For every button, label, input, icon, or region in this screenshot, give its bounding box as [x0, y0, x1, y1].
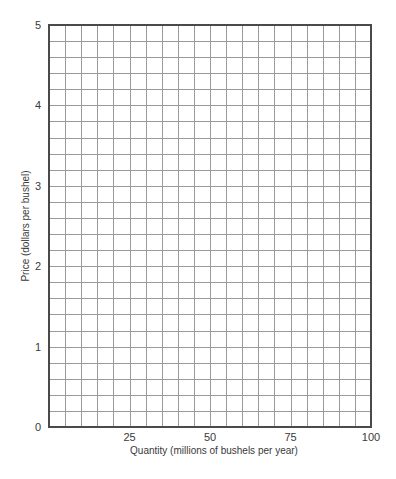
x-axis-title: Quantity (millions of bushels per year): [130, 445, 298, 456]
y-tick-label: 0: [35, 421, 41, 433]
grid-lines: [49, 25, 371, 427]
y-axis-tick-labels: 012345: [35, 19, 41, 433]
x-axis-tick-labels: 255075100: [123, 431, 380, 443]
y-tick-label: 1: [35, 341, 41, 353]
price-quantity-chart: 012345 255075100 Quantity (millions of b…: [0, 0, 396, 479]
x-tick-label: 50: [204, 431, 216, 443]
y-tick-label: 4: [35, 99, 41, 111]
x-tick-label: 25: [123, 431, 135, 443]
y-tick-label: 5: [35, 19, 41, 31]
x-tick-label: 100: [362, 431, 380, 443]
y-axis-title: Price (dollars per bushel): [20, 170, 31, 281]
x-tick-label: 75: [284, 431, 296, 443]
y-tick-label: 2: [35, 260, 41, 272]
y-tick-label: 3: [35, 180, 41, 192]
